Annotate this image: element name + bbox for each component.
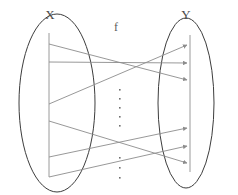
mapping-arrow-4	[49, 121, 187, 163]
ellipsis-lower	[119, 157, 121, 179]
function-name-label: f	[114, 20, 118, 34]
codomain-set-label: Y	[181, 7, 191, 22]
domain-set-ellipse	[19, 14, 95, 192]
mapping-arrow-6	[49, 146, 187, 177]
mapping-arrow-2	[49, 62, 187, 63]
mapping-arrow-5	[49, 128, 187, 157]
ellipsis-upper	[119, 89, 121, 127]
domain-set-label: X	[45, 7, 55, 22]
diagram-canvas: X Y f	[0, 0, 238, 195]
function-mapping-diagram: X Y f	[0, 0, 238, 195]
